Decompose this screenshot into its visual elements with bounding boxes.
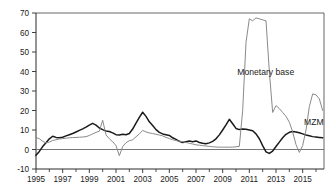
- y-axis-ticks: [32, 13, 36, 169]
- plot-frame: [36, 13, 324, 169]
- x-tick-label: 1995: [27, 175, 46, 184]
- y-tick-label: 30: [20, 87, 30, 96]
- x-tick-label: 2009: [214, 175, 233, 184]
- x-tick-label: 2003: [134, 175, 153, 184]
- line-chart-svg: -10010203040506070 199519971999200120032…: [0, 0, 333, 194]
- x-tick-label: 2007: [187, 175, 206, 184]
- x-axis-ticks: [36, 169, 316, 173]
- y-tick-label: -10: [17, 165, 29, 174]
- x-tick-label: 2001: [107, 175, 126, 184]
- y-tick-label: 40: [20, 68, 30, 77]
- y-tick-label: 0: [24, 146, 29, 155]
- x-tick-label: 2005: [160, 175, 179, 184]
- plot-background: [36, 13, 324, 169]
- annotation-mzm: MZM: [304, 117, 324, 127]
- y-tick-label: 50: [20, 48, 30, 57]
- chart-figure: -10010203040506070 199519971999200120032…: [0, 0, 333, 194]
- y-tick-label: 20: [20, 107, 30, 116]
- x-tick-label: 2015: [294, 175, 313, 184]
- y-tick-label: 60: [20, 29, 30, 38]
- y-tick-label: 70: [20, 9, 30, 18]
- x-axis-tick-labels: 1995199719992001200320052007200920112013…: [27, 175, 312, 184]
- y-tick-label: 10: [20, 126, 30, 135]
- y-axis-tick-labels: -10010203040506070: [17, 9, 29, 174]
- x-tick-label: 1999: [80, 175, 99, 184]
- annotation-monetary-base: Monetary base: [237, 67, 294, 77]
- x-tick-label: 2013: [267, 175, 286, 184]
- x-tick-label: 1997: [54, 175, 73, 184]
- x-tick-label: 2011: [241, 175, 259, 184]
